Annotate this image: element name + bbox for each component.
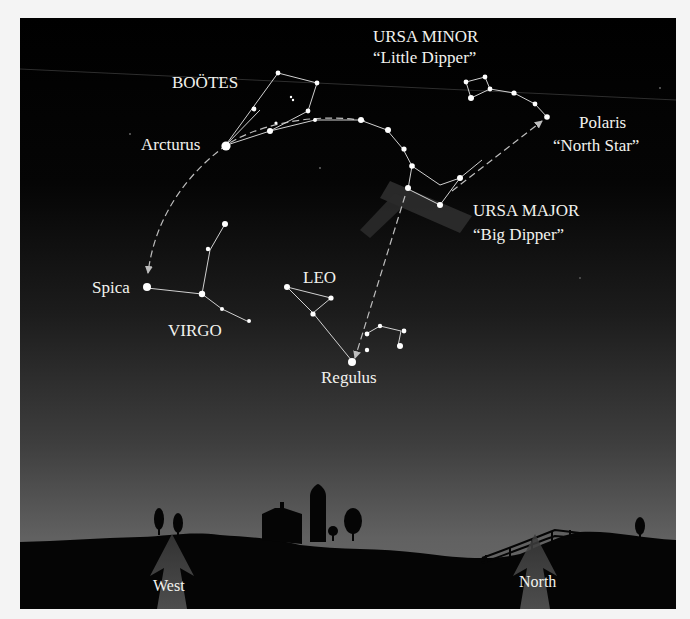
star-arcturus xyxy=(221,141,230,150)
silo xyxy=(310,484,326,542)
label-north-star: “North Star” xyxy=(553,136,639,155)
label-little-dipper: “Little Dipper” xyxy=(373,48,476,67)
label-regulus: Regulus xyxy=(321,368,377,387)
label-polaris: Polaris xyxy=(579,113,626,132)
star-spica xyxy=(143,283,151,291)
star-chart-diagram: URSA MINOR “Little Dipper” BOÖTES Arctur… xyxy=(20,18,676,609)
label-bootes: BOÖTES xyxy=(172,73,238,92)
label-ursa-major: URSA MAJOR xyxy=(473,201,580,220)
label-leo: LEO xyxy=(303,268,336,287)
label-spica: Spica xyxy=(92,278,130,297)
label-big-dipper: “Big Dipper” xyxy=(473,225,564,244)
star-regulus xyxy=(348,358,356,366)
star-polaris xyxy=(544,114,550,120)
label-arcturus: Arcturus xyxy=(141,135,200,154)
label-ursa-minor: URSA MINOR xyxy=(373,27,479,46)
label-west: West xyxy=(153,577,185,594)
label-north: North xyxy=(519,573,556,590)
label-virgo: VIRGO xyxy=(168,321,222,340)
